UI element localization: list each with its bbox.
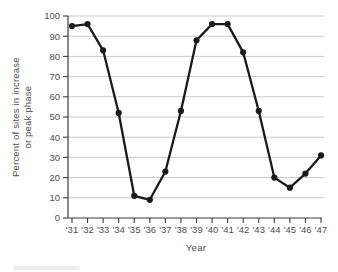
x-tick-label: '47	[315, 224, 327, 235]
data-point	[271, 175, 277, 181]
y-axis-title: Percent of sites in increase or peak pha…	[10, 7, 34, 227]
data-point	[193, 37, 199, 43]
y-tick-label: 80	[49, 51, 60, 62]
x-tick-label: '36	[144, 224, 156, 235]
data-point	[131, 193, 137, 199]
data-point	[100, 47, 106, 53]
x-tick-label: '46	[299, 224, 311, 235]
y-tick-label: 20	[49, 172, 60, 183]
y-tick-label: 60	[49, 91, 60, 102]
y-axis-title-line2: or peak phase	[22, 7, 34, 227]
x-axis-title: Year	[186, 242, 207, 253]
x-tick-label: '38	[175, 224, 187, 235]
x-tick-label: '37	[159, 224, 171, 235]
data-point	[256, 108, 262, 114]
data-point	[84, 21, 90, 27]
y-tick-label: 40	[49, 132, 60, 143]
data-point	[318, 152, 324, 158]
x-tick-label: '39	[190, 224, 202, 235]
x-tick-label: '41	[221, 224, 233, 235]
x-tick-label: '45	[284, 224, 296, 235]
y-tick-label: 70	[49, 71, 60, 82]
x-tick-label: '34	[112, 224, 124, 235]
y-tick-label: 10	[49, 192, 60, 203]
data-point	[287, 185, 293, 191]
y-tick-label: 30	[49, 152, 60, 163]
series-line	[72, 24, 321, 200]
line-chart-figure: 0102030405060708090100'31'32'33'34'35'36…	[0, 0, 338, 272]
data-point	[240, 49, 246, 55]
x-tick-label: '35	[128, 224, 140, 235]
line-chart: 0102030405060708090100'31'32'33'34'35'36…	[0, 0, 338, 272]
x-tick-label: '42	[237, 224, 249, 235]
data-point	[225, 21, 231, 27]
x-tick-label: '31	[66, 224, 78, 235]
data-point	[178, 108, 184, 114]
x-tick-label: '32	[81, 224, 93, 235]
y-tick-label: 0	[55, 212, 60, 223]
bottom-artifact-bar	[13, 266, 80, 270]
data-point	[162, 168, 168, 174]
y-tick-label: 50	[49, 111, 60, 122]
data-point	[302, 170, 308, 176]
y-tick-label: 100	[44, 10, 60, 21]
data-point	[69, 23, 75, 29]
y-tick-label: 90	[49, 31, 60, 42]
x-tick-label: '44	[268, 224, 280, 235]
x-tick-label: '40	[206, 224, 218, 235]
x-tick-label: '33	[97, 224, 109, 235]
data-point	[116, 110, 122, 116]
x-tick-label: '43	[253, 224, 265, 235]
y-axis-title-line1: Percent of sites in increase	[10, 7, 22, 227]
data-point	[147, 197, 153, 203]
data-point	[209, 21, 215, 27]
